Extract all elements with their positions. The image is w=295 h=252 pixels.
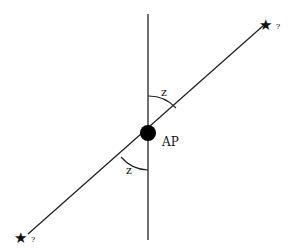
angle-label-top: z [161, 86, 167, 99]
star-top-question-mark: ? [276, 22, 280, 31]
star-icon-bottom: ★ [14, 229, 27, 247]
ap-label: AP [161, 135, 179, 149]
star-icon-top: ★ [259, 16, 272, 34]
diagram-canvas: z z AP ★ ? ★ ? [0, 0, 295, 252]
star-bottom-question-mark: ? [31, 235, 35, 244]
angle-label-bottom: z [126, 164, 132, 177]
ap-point [140, 125, 156, 141]
diagram-svg: z z AP ★ ? ★ ? [0, 0, 295, 252]
